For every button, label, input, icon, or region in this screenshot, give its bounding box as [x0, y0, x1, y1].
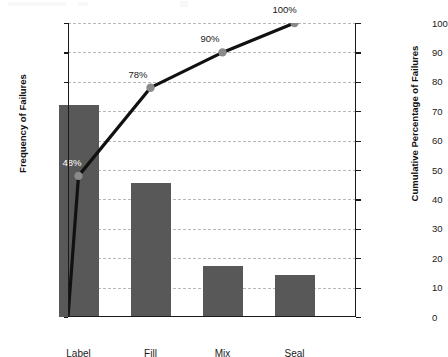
percent-label: 78%: [129, 70, 148, 80]
y-axis-left-title: Frequency of Failures: [17, 64, 28, 184]
line-marker: [146, 83, 154, 91]
y-axis-right-tick-label: 0: [432, 313, 437, 323]
y-axis-right-tick-label: 60: [432, 136, 443, 146]
x-axis-category-label: Label: [39, 349, 119, 357]
scan-artifact: [8, 2, 66, 6]
y-axis-right-tick: [356, 229, 361, 230]
y-axis-right-tick: [356, 258, 361, 259]
y-axis-left-line: [68, 23, 69, 317]
gridline: [68, 258, 356, 259]
y-axis-right-tick: [356, 317, 361, 318]
y-axis-right-tick-label: 70: [432, 107, 443, 117]
gridline: [68, 199, 356, 200]
gridline: [68, 23, 356, 24]
y-axis-right-tick: [356, 170, 361, 171]
percent-label: 48%: [63, 158, 82, 168]
scan-artifact: [180, 1, 188, 7]
y-axis-right-tick-label: 20: [432, 254, 443, 264]
y-axis-right-tick-label: 80: [432, 77, 443, 87]
bar: [131, 183, 171, 317]
gridline: [68, 111, 356, 112]
gridline: [68, 141, 356, 142]
y-axis-right-tick-label: 30: [432, 224, 443, 234]
y-axis-right-tick-label: 100: [432, 19, 448, 29]
gridline: [68, 229, 356, 230]
y-axis-right-tick: [356, 52, 361, 53]
gridline: [68, 170, 356, 171]
y-axis-right-line: [355, 23, 356, 317]
bar: [59, 105, 99, 317]
y-axis-right-tick: [356, 199, 361, 200]
y-axis-right-tick-label: 50: [432, 166, 443, 176]
gridline: [68, 82, 356, 83]
y-axis-right-tick: [356, 141, 361, 142]
bar: [275, 275, 315, 317]
y-axis-right-tick-label: 10: [432, 283, 443, 293]
y-axis-right-tick-label: 40: [432, 195, 443, 205]
gridline: [68, 52, 356, 53]
x-axis-category-label: Seal: [255, 349, 335, 357]
x-axis-category-label: Mix: [183, 349, 263, 357]
scan-artifact: [78, 2, 88, 6]
x-axis-category-label: Fill: [111, 349, 191, 357]
percent-label: 90%: [201, 34, 220, 44]
y-axis-right-tick: [356, 111, 361, 112]
y-axis-right-tick-label: 90: [432, 48, 443, 58]
y-axis-left-tick: [64, 317, 69, 318]
y-axis-right-title: Cumulative Percentage of Failures: [409, 34, 420, 214]
plot-area: 0481216202428323640 01020304050607080901…: [68, 23, 356, 317]
y-axis-right-tick: [356, 23, 361, 24]
x-axis-line: [68, 316, 356, 317]
y-axis-right-tick: [356, 288, 361, 289]
bar: [203, 266, 243, 317]
percent-label: 100%: [273, 5, 297, 15]
y-axis-right-tick: [356, 82, 361, 83]
